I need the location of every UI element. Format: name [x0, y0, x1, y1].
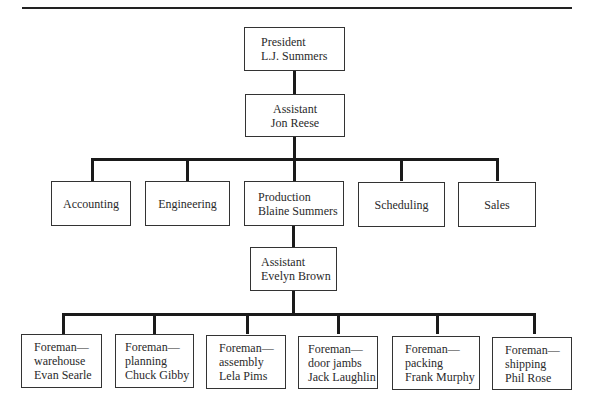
foreman-assembly: Foreman— assembly Lela Pims [206, 335, 286, 389]
foreman-area: door jambs [308, 356, 362, 370]
president-name: L.J. Summers [261, 49, 327, 63]
foreman-title: Foreman— [405, 342, 460, 356]
connector-production-assistant [292, 226, 295, 247]
foreman-name: Phil Rose [505, 371, 551, 385]
foreman-area: planning [125, 354, 167, 368]
assistant-2-title: Assistant [261, 255, 305, 269]
drop-scheduling [400, 158, 403, 181]
foreman-name: Frank Murphy [405, 370, 475, 384]
foreman-shipping: Foreman— shipping Phil Rose [492, 337, 572, 390]
assistant-1-name: Jon Reese [271, 116, 319, 130]
department-scheduling: Scheduling [358, 182, 445, 227]
department-sales: Sales [458, 182, 536, 227]
foreman-name: Chuck Gibby [125, 368, 189, 382]
foreman-door-jambs: Foreman— door jambs Jack Laughlin [298, 336, 378, 389]
drop-warehouse [62, 313, 65, 334]
foreman-planning: Foreman— planning Chuck Gibby [115, 334, 194, 388]
assistant-evelyn-brown-box: Assistant Evelyn Brown [250, 247, 337, 291]
foreman-area: assembly [219, 355, 264, 369]
foreman-title: Foreman— [125, 340, 180, 354]
department-label: Scheduling [375, 198, 429, 212]
president-box: President L.J. Summers [244, 27, 345, 71]
foreman-area: warehouse [34, 354, 85, 368]
drop-production [293, 158, 296, 181]
drop-accounting [91, 158, 94, 181]
connector-assistant-bar [293, 137, 296, 160]
foreman-name: Lela Pims [219, 369, 267, 383]
production-title: Production [258, 190, 311, 204]
department-label: Accounting [63, 197, 119, 211]
drop-planning [153, 313, 156, 334]
department-production: Production Blaine Summers [244, 181, 344, 226]
department-label: Sales [484, 198, 509, 212]
assistant-jon-reese-box: Assistant Jon Reese [245, 94, 345, 137]
president-title: President [261, 35, 306, 49]
foreman-area: packing [405, 356, 443, 370]
foreman-title: Foreman— [505, 343, 560, 357]
foreman-warehouse: Foreman— warehouse Evan Searle [21, 334, 102, 388]
foreman-title: Foreman— [219, 341, 274, 355]
department-accounting: Accounting [51, 181, 131, 226]
assistant-2-name: Evelyn Brown [261, 269, 331, 283]
drop-assembly [246, 313, 249, 334]
foreman-packing: Foreman— packing Frank Murphy [392, 336, 480, 390]
assistant-1-title: Assistant [273, 102, 317, 116]
connector-assistant2-bar [292, 291, 295, 314]
department-engineering: Engineering [145, 181, 230, 226]
drop-shipping [533, 313, 536, 334]
foreman-name: Jack Laughlin [308, 370, 376, 384]
connector-president-assistant [293, 71, 296, 94]
foreman-area: shipping [505, 357, 546, 371]
drop-door-jambs [337, 313, 340, 334]
drop-sales [496, 158, 499, 181]
drop-engineering [186, 158, 189, 181]
foreman-title: Foreman— [308, 342, 363, 356]
foreman-title: Foreman— [34, 340, 89, 354]
drop-packing [436, 313, 439, 334]
foreman-name: Evan Searle [34, 368, 92, 382]
top-rule [22, 7, 572, 9]
production-name: Blaine Summers [258, 204, 338, 218]
department-label: Engineering [158, 197, 217, 211]
foreman-bar [62, 313, 536, 316]
